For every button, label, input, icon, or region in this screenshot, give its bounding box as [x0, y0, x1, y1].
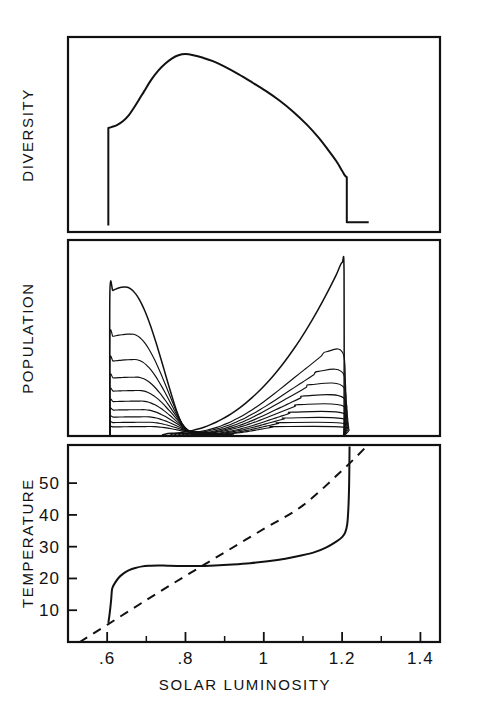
population-curve	[110, 281, 221, 436]
y-axis-ticks-temperature	[68, 483, 77, 610]
x-tick-label: 1	[259, 649, 269, 668]
x-tick-label: .6	[99, 649, 115, 668]
y-tick-label-temperature: 30	[39, 538, 60, 557]
axis-title-diversity: DIVERSITY	[19, 88, 36, 182]
axis-title-population: POPULATION	[19, 282, 36, 394]
axis-title-temperature: TEMPERATURE	[19, 478, 36, 608]
population-curve	[110, 330, 223, 436]
figure-root: DIVERSITY POPULATION 1020304050 TEMPERAT…	[0, 0, 479, 718]
y-tick-label-temperature: 10	[39, 601, 60, 620]
x-tick-label: 1.4	[407, 649, 434, 668]
panel-diversity-frame	[68, 37, 440, 232]
y-axis-tick-labels-temperature: 1020304050	[39, 474, 60, 620]
x-axis-tick-labels: .6.811.21.4	[99, 649, 434, 668]
population-curve	[110, 356, 224, 436]
panel-temperature-frame	[68, 445, 440, 642]
population-curve-group	[110, 257, 349, 436]
x-tick-label: .8	[177, 649, 193, 668]
y-tick-label-temperature: 50	[39, 474, 60, 493]
panel-diversity	[68, 37, 440, 232]
x-tick-label: 1.2	[329, 649, 356, 668]
panel-population-frame	[68, 240, 440, 436]
panel-population	[68, 240, 440, 436]
daisyworld-figure: DIVERSITY POPULATION 1020304050 TEMPERAT…	[0, 0, 479, 718]
temperature-curve	[108, 447, 349, 623]
barren-temperature-curve	[80, 447, 367, 642]
diversity-curve	[108, 54, 368, 225]
population-curve	[110, 388, 227, 436]
y-tick-label-temperature: 20	[39, 569, 60, 588]
panel-temperature: 1020304050	[39, 445, 440, 642]
y-tick-label-temperature: 40	[39, 506, 60, 525]
axis-title-x: SOLAR LUMINOSITY	[159, 676, 331, 693]
x-axis-ticks	[107, 632, 420, 642]
